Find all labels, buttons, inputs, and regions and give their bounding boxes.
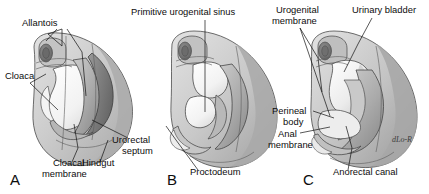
panel-a-illustration <box>33 33 133 166</box>
panel-c-illustration <box>311 31 417 168</box>
anatomy-label: membrane <box>272 15 317 26</box>
figure-canvas: AllantoisCloacaCloacalmembraneHindgutUro… <box>0 0 429 194</box>
artist-signature: dLo-R <box>392 135 412 144</box>
anatomy-label: Urinary bladder <box>352 4 416 15</box>
panel-letter-b: B <box>167 171 177 188</box>
anatomy-label: membrane <box>268 139 313 150</box>
anatomy-label: septum <box>122 145 153 156</box>
anatomy-label: Proctodeum <box>190 166 241 177</box>
panel-letter-a: A <box>10 171 20 188</box>
panel-b-sinus-lumen-inner <box>182 46 189 56</box>
panel-a-allantois-lumen-inner <box>43 48 50 59</box>
embryology-figure: AllantoisCloacaCloacalmembraneHindgutUro… <box>0 0 429 194</box>
anatomy-label: Cloacal <box>53 157 84 168</box>
panel-c-urogenital-membrane-inner <box>322 46 329 56</box>
panel-b-illustration <box>170 31 277 168</box>
anatomy-label: Anal <box>278 128 297 139</box>
anatomy-label: Primitive urogenital sinus <box>131 6 236 17</box>
anatomy-label: Perineal <box>272 105 306 116</box>
anatomy-label: Anorectal canal <box>333 166 398 177</box>
anatomy-label: Allantois <box>22 17 58 28</box>
anatomy-label: body <box>283 116 304 127</box>
panel-letter-c: C <box>303 171 314 188</box>
anatomy-label: Urogenital <box>276 4 319 15</box>
anatomy-label: Hindgut <box>82 157 115 168</box>
anatomy-label: Urorectal <box>112 134 150 145</box>
panel-b-lower-sinus-lumen <box>185 96 215 128</box>
anatomy-label: Cloaca <box>5 70 35 81</box>
anatomy-label: membrane <box>42 168 87 179</box>
